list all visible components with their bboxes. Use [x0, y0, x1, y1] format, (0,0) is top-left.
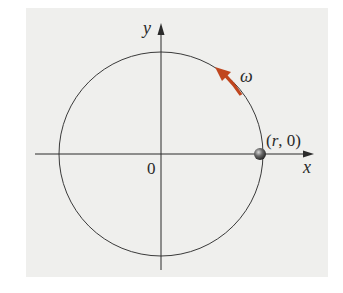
x-axis-label: x	[302, 157, 311, 177]
y-axis-label: y	[141, 18, 151, 38]
omega-label: ω	[240, 66, 253, 86]
origin-label: 0	[147, 159, 156, 178]
circular-motion-diagram: y x 0 ω (r, 0)	[0, 0, 343, 293]
point-coordinate-label: (r, 0)	[266, 131, 301, 150]
particle	[254, 148, 266, 160]
